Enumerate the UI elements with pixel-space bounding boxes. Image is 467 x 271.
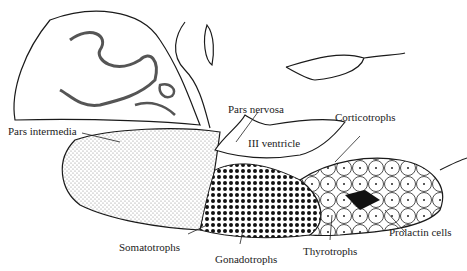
label-pars-intermedia: Pars intermedia [8, 126, 77, 137]
label-corticotrophs: Corticotrophs [335, 112, 396, 123]
pars-intermedia-region [62, 129, 220, 230]
label-prolactin-cells: Prolactin cells [389, 227, 452, 238]
pituitary-diagram: Pars intermedia Pars nervosa III ventric… [0, 0, 467, 271]
label-iii-ventricle: III ventricle [248, 138, 300, 149]
label-thyrotrophs: Thyrotrophs [303, 246, 357, 257]
gonadotrophs-region [200, 164, 321, 238]
label-gonadotrophs: Gonadotrophs [215, 254, 277, 265]
label-somatotrophs: Somatotrophs [119, 242, 180, 253]
label-pars-nervosa: Pars nervosa [228, 104, 284, 115]
